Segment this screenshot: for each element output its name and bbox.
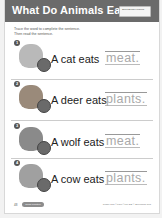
sentence-text: A wolf eats — [51, 136, 104, 148]
worksheet-header: What Do Animals Eat? Skills Builder Trac… — [5, 0, 159, 22]
sentence-text: A cow eats — [51, 173, 104, 185]
trace-word[interactable]: plants. — [105, 92, 147, 106]
exercise-item: 4 A cow eats plants. — [11, 160, 153, 198]
copyright-text: Grade Ran ©TCM ©MP DB © Benchmar Res — [103, 203, 151, 206]
divider — [11, 158, 153, 159]
meat-icon — [37, 141, 51, 155]
divider — [11, 79, 153, 80]
item-number: 3 — [14, 123, 20, 129]
page-title: What Do Animals Eat? — [12, 4, 131, 16]
sentence-text: A cat eats — [51, 53, 99, 65]
exercise-item: 1 A cat eats meat. — [11, 40, 153, 78]
page-footer: 48 Skills Practice Grade Ran ©TCM ©MP DB… — [5, 201, 159, 209]
section-pill: Skills Practice — [22, 202, 44, 207]
item-number: 4 — [14, 160, 20, 166]
trace-word[interactable]: meat. — [105, 134, 140, 148]
trace-word[interactable]: plants. — [105, 171, 147, 185]
item-number: 1 — [14, 40, 20, 46]
exercise-item: 3 A wolf eats meat. — [11, 123, 153, 161]
worksheet-page: What Do Animals Eat? Skills Builder Trac… — [4, 0, 160, 214]
page-number: 48 — [14, 203, 17, 207]
plants-icon — [37, 99, 51, 113]
skill-badge: Skills Builder Tracing — [119, 6, 151, 17]
exercise-item: 2 A deer eats plants. — [11, 81, 153, 119]
divider — [11, 120, 153, 121]
item-number: 2 — [14, 81, 20, 87]
sentence-text: A deer eats — [51, 94, 107, 106]
plants-icon — [37, 178, 51, 192]
meat-icon — [37, 58, 51, 72]
instructions: Trace the word to complete the sentence.… — [14, 27, 80, 37]
trace-word[interactable]: meat. — [105, 51, 140, 65]
